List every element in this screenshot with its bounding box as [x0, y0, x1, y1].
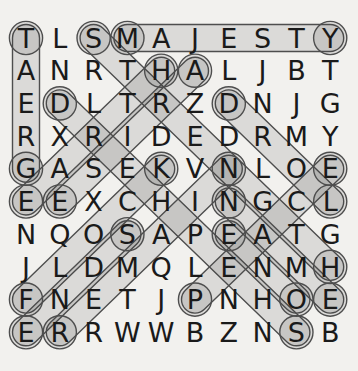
grid-letter-r3c9[interactable]: J	[290, 88, 300, 119]
grid-letter-r8c8[interactable]: N	[252, 252, 272, 283]
grid-letter-r6c10[interactable]: L	[323, 186, 338, 217]
grid-letter-r10c8[interactable]: N	[252, 317, 272, 348]
grid-letter-r2c9[interactable]: B	[287, 55, 306, 86]
grid-letter-r10c2[interactable]: R	[50, 317, 69, 348]
grid-letter-r10c7[interactable]: Z	[220, 317, 239, 348]
grid-letter-r7c6[interactable]: P	[187, 219, 203, 250]
grid-letter-r10c5[interactable]: W	[148, 317, 175, 348]
grid-letter-r6c7[interactable]: N	[219, 186, 239, 217]
grid-letter-r7c7[interactable]: E	[220, 219, 237, 250]
grid-letter-r7c3[interactable]: O	[83, 219, 104, 250]
grid-letter-r3c6[interactable]: Z	[186, 88, 205, 119]
grid-letter-r8c3[interactable]: D	[83, 252, 104, 283]
grid-letter-r4c10[interactable]: Y	[321, 121, 339, 152]
grid-letter-r1c3[interactable]: S	[85, 23, 102, 54]
grid-letter-r1c7[interactable]: E	[220, 23, 237, 54]
grid-letter-r4c2[interactable]: X	[51, 121, 70, 152]
grid-letter-r3c10[interactable]: G	[320, 88, 341, 119]
grid-letter-r5c2[interactable]: A	[51, 153, 70, 184]
grid-letter-r4c6[interactable]: E	[186, 121, 203, 152]
grid-letter-r8c4[interactable]: M	[116, 252, 139, 283]
grid-letter-r4c1[interactable]: R	[17, 121, 36, 152]
grid-letter-r7c1[interactable]: N	[16, 219, 36, 250]
grid-letter-r8c9[interactable]: M	[285, 252, 308, 283]
grid-letter-r4c5[interactable]: D	[151, 121, 172, 152]
grid-letter-r3c5[interactable]: R	[152, 88, 171, 119]
grid-letter-r6c6[interactable]: I	[191, 186, 199, 217]
grid-letter-r6c1[interactable]: E	[17, 186, 34, 217]
grid-letter-r5c9[interactable]: O	[286, 153, 307, 184]
grid-letter-r6c4[interactable]: C	[118, 186, 137, 217]
grid-letter-r5c5[interactable]: K	[152, 153, 171, 184]
grid-letter-r9c10[interactable]: E	[322, 284, 339, 315]
grid-letter-r9c3[interactable]: E	[85, 284, 102, 315]
grid-letter-r6c2[interactable]: E	[51, 186, 68, 217]
grid-letter-r2c1[interactable]: A	[17, 55, 36, 86]
grid-letter-r7c4[interactable]: S	[119, 219, 136, 250]
grid-letter-r10c1[interactable]: E	[17, 317, 34, 348]
grid-letter-r8c1[interactable]: J	[20, 252, 30, 283]
grid-letter-r9c7[interactable]: N	[219, 284, 239, 315]
grid-letter-r5c4[interactable]: E	[119, 153, 136, 184]
grid-letter-r6c3[interactable]: X	[84, 186, 103, 217]
grid-letter-r2c2[interactable]: N	[50, 55, 70, 86]
grid-letter-r6c8[interactable]: G	[252, 186, 273, 217]
grid-letter-r4c3[interactable]: R	[84, 121, 103, 152]
grid-letter-r2c5[interactable]: H	[151, 55, 171, 86]
grid-letter-r5c7[interactable]: N	[219, 153, 239, 184]
grid-letter-r5c6[interactable]: V	[186, 153, 205, 184]
grid-letter-r4c9[interactable]: M	[285, 121, 308, 152]
grid-letter-r9c4[interactable]: T	[118, 284, 136, 315]
grid-letter-r9c2[interactable]: N	[50, 284, 70, 315]
grid-letter-r7c2[interactable]: Q	[49, 219, 70, 250]
grid-letter-r2c7[interactable]: L	[221, 55, 236, 86]
grid-letter-r8c7[interactable]: E	[220, 252, 237, 283]
grid-letter-r4c7[interactable]: D	[218, 121, 239, 152]
grid-letter-r7c10[interactable]: G	[320, 219, 341, 250]
grid-letter-r3c1[interactable]: E	[17, 88, 34, 119]
grid-letter-r1c10[interactable]: Y	[321, 23, 339, 54]
grid-letter-r6c5[interactable]: H	[151, 186, 171, 217]
grid-letter-r2c3[interactable]: R	[84, 55, 103, 86]
grid-letter-r8c6[interactable]: L	[187, 252, 202, 283]
grid-letter-r5c1[interactable]: G	[16, 153, 37, 184]
grid-letter-r9c1[interactable]: F	[18, 284, 34, 315]
grid-letter-r3c4[interactable]: T	[118, 88, 136, 119]
grid-letter-r1c6[interactable]: J	[189, 23, 199, 54]
grid-letter-r8c5[interactable]: Q	[151, 252, 172, 283]
grid-letter-r9c9[interactable]: O	[286, 284, 307, 315]
grid-letter-r4c4[interactable]: I	[123, 121, 131, 152]
grid-letter-r7c9[interactable]: T	[287, 219, 305, 250]
grid-letter-r10c10[interactable]: B	[321, 317, 340, 348]
grid-letter-r3c7[interactable]: D	[218, 88, 239, 119]
grid-letter-r2c6[interactable]: A	[186, 55, 205, 86]
grid-letter-r1c2[interactable]: L	[52, 23, 67, 54]
grid-letter-r10c6[interactable]: B	[186, 317, 205, 348]
grid-letter-r3c3[interactable]: L	[86, 88, 101, 119]
grid-letter-r1c8[interactable]: S	[254, 23, 271, 54]
grid-letter-r2c10[interactable]: T	[321, 55, 339, 86]
grid-letter-r10c9[interactable]: S	[288, 317, 305, 348]
grid-letter-r4c8[interactable]: R	[253, 121, 272, 152]
grid-letter-r7c8[interactable]: A	[253, 219, 272, 250]
grid-letter-r1c1[interactable]: T	[17, 23, 35, 54]
grid-letter-r8c10[interactable]: H	[320, 252, 340, 283]
grid-letter-r7c5[interactable]: A	[152, 219, 171, 250]
grid-letter-r6c9[interactable]: C	[287, 186, 306, 217]
grid-letter-r10c3[interactable]: R	[84, 317, 103, 348]
grid-letter-r3c8[interactable]: N	[252, 88, 272, 119]
grid-letter-r9c5[interactable]: J	[155, 284, 165, 315]
grid-letter-r9c8[interactable]: H	[252, 284, 272, 315]
grid-letter-r10c4[interactable]: W	[114, 317, 141, 348]
grid-letter-r5c3[interactable]: S	[85, 153, 102, 184]
grid-letter-r2c4[interactable]: T	[118, 55, 136, 86]
grid-letter-r9c6[interactable]: P	[187, 284, 203, 315]
grid-letter-r1c5[interactable]: A	[152, 23, 171, 54]
grid-letter-r1c9[interactable]: T	[287, 23, 305, 54]
grid-letter-r5c8[interactable]: L	[255, 153, 270, 184]
grid-letter-r3c2[interactable]: D	[49, 88, 70, 119]
grid-letter-r2c8[interactable]: J	[257, 55, 267, 86]
grid-letter-r8c2[interactable]: L	[52, 252, 67, 283]
grid-letter-r5c10[interactable]: E	[322, 153, 339, 184]
grid-letter-r1c4[interactable]: M	[116, 23, 139, 54]
